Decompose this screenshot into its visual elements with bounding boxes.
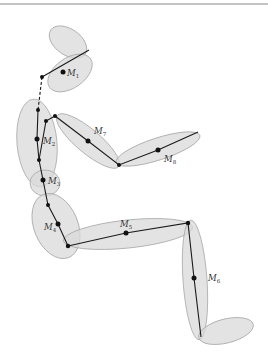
skeleton [37,50,201,337]
joint-elbow [117,163,121,167]
mass-center-m3 [41,178,46,183]
joint-hip-upper [46,203,50,207]
joint-hip [66,244,70,248]
mass-center-m5 [124,231,129,236]
label-m6: M6 [207,273,221,284]
joint-shoulder [44,119,48,123]
label-m8: M8 [163,154,177,165]
joint-upper-arm [53,114,57,118]
joint-waist [37,158,41,162]
pelvis-ellipse [23,186,89,266]
body-segment-diagram: M1 M2 M3 M4 M5 M6 M7 M8 [0,0,268,357]
joint-knee [186,221,190,225]
mass-center-m6 [192,276,197,281]
mass-center-m2 [35,137,40,142]
joint-head-base [40,75,44,79]
mass-center-m8 [156,148,161,153]
label-m7: M7 [93,126,107,137]
mass-center-m4 [56,222,61,227]
joint-neck [36,108,40,112]
mass-center-m1 [61,70,66,75]
mass-center-m7 [86,139,91,144]
